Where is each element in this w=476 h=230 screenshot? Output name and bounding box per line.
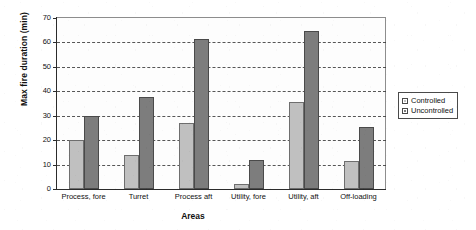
chart-legend: ControlledUncontrolled	[398, 92, 458, 119]
legend-swatch-icon	[402, 98, 408, 104]
bar-controlled-turret	[124, 155, 139, 189]
gridline	[57, 140, 386, 141]
y-axis-tick-label: 60	[43, 39, 51, 47]
bar-uncontrolled-process-fore	[84, 116, 99, 189]
y-axis-tick-label: 50	[43, 63, 51, 71]
y-axis-tick-mark	[53, 67, 56, 68]
x-axis-tick-label: Process aft	[175, 193, 213, 201]
y-axis-tick-label: 30	[43, 112, 51, 120]
y-axis-tick-mark	[53, 189, 56, 190]
y-axis-tick-mark	[53, 165, 56, 166]
x-axis-tick-label: Utility, aft	[288, 193, 318, 201]
gridline	[57, 116, 386, 117]
gridline	[57, 91, 386, 92]
y-axis-tick-mark	[53, 42, 56, 43]
bar-uncontrolled-utility-aft	[304, 31, 319, 189]
x-axis-tick-label: Off-loading	[340, 193, 377, 201]
legend-swatch-icon	[402, 108, 408, 114]
legend-item-label: Controlled	[411, 96, 445, 105]
bar-uncontrolled-off-loading	[359, 127, 374, 189]
bar-chart-figure: Max fire duration (min) 010203040506070 …	[0, 0, 476, 230]
y-axis-tick-label: 0	[47, 185, 51, 193]
y-axis-tick-mark	[53, 140, 56, 141]
bar-uncontrolled-turret	[139, 97, 154, 189]
y-axis-tick-label: 10	[43, 161, 51, 169]
legend-item-controlled: Controlled	[402, 96, 453, 105]
plot-area: 010203040506070 Process, foreTurretProce…	[56, 17, 386, 190]
legend-item-uncontrolled: Uncontrolled	[402, 106, 453, 115]
y-axis-tick-mark	[53, 116, 56, 117]
x-axis-tick-label: Turret	[129, 193, 149, 201]
x-axis-tick-label: Process, fore	[61, 193, 105, 201]
x-axis-tick-label: Utility, fore	[231, 193, 266, 201]
y-axis-tick-label: 70	[43, 14, 51, 22]
bar-controlled-utility-fore	[234, 184, 249, 189]
y-axis-tick-label: 20	[43, 136, 51, 144]
bar-uncontrolled-process-aft	[194, 39, 209, 189]
y-axis-title: Max fire duration (min)	[17, 0, 31, 129]
gridline	[57, 165, 386, 166]
gridline	[57, 42, 386, 43]
plot-top-border	[56, 17, 386, 18]
x-axis-title: Areas	[0, 211, 386, 221]
bar-controlled-off-loading	[344, 161, 359, 189]
x-axis-line	[56, 189, 386, 190]
legend-item-label: Uncontrolled	[411, 106, 453, 115]
y-axis-tick-mark	[53, 18, 56, 19]
y-axis-tick-label: 40	[43, 88, 51, 96]
bar-controlled-utility-aft	[289, 102, 304, 189]
bar-controlled-process-fore	[69, 140, 84, 189]
gridline	[57, 67, 386, 68]
bar-uncontrolled-utility-fore	[249, 160, 264, 189]
y-axis-tick-mark	[53, 91, 56, 92]
bar-controlled-process-aft	[179, 123, 194, 189]
